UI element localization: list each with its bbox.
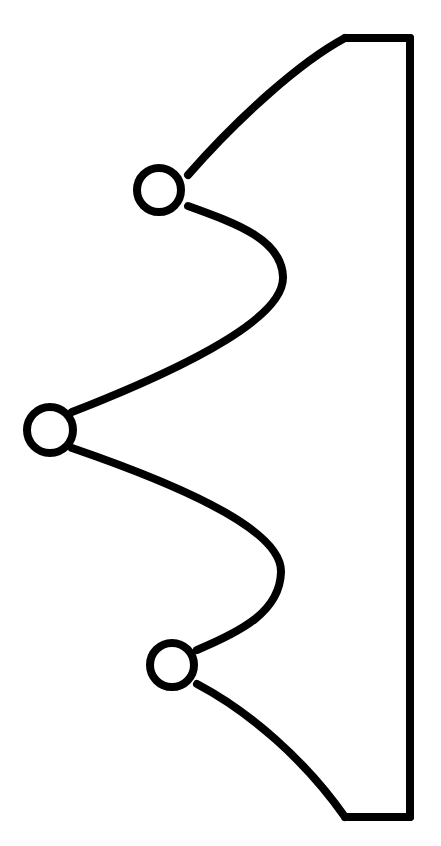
line-drawing-figure [0, 0, 441, 846]
drawing-canvas [0, 0, 441, 846]
background-rect [0, 0, 441, 846]
